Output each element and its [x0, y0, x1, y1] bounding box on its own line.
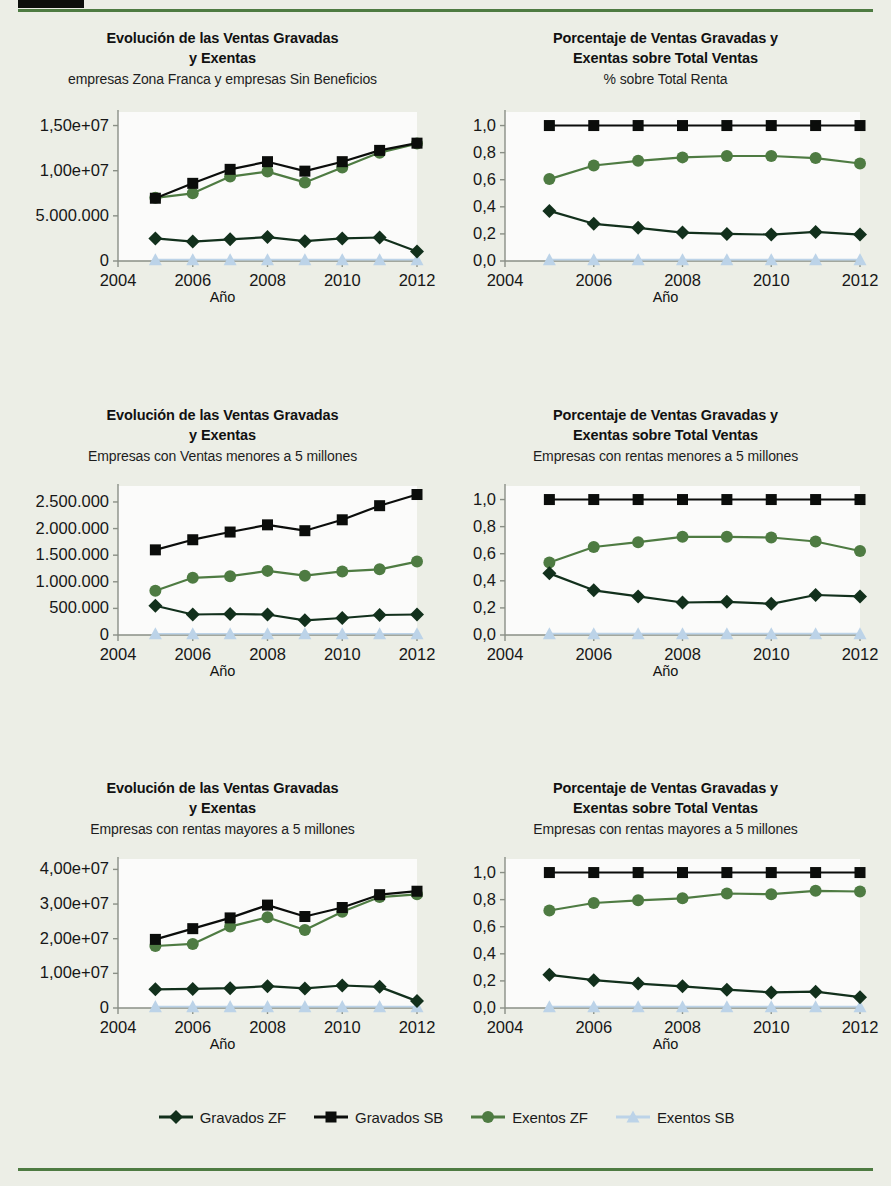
- data-point-circle: [187, 187, 199, 199]
- x-tick-label: 2008: [664, 1018, 701, 1036]
- data-point-circle: [810, 536, 822, 548]
- data-point-square: [766, 120, 777, 131]
- data-point-circle: [677, 151, 689, 163]
- legend-label: Exentos SB: [657, 1109, 734, 1126]
- chart-title: Evolución de las Ventas Gravadas y Exent…: [0, 405, 445, 445]
- y-tick-label: 0,8: [473, 143, 496, 161]
- chart-title-line1: Porcentaje de Ventas Gravadas y: [553, 30, 778, 46]
- y-tick-label: 3,00e+07: [40, 894, 109, 912]
- chart-title-line2: y Exentas: [189, 800, 256, 816]
- data-point-circle: [262, 911, 274, 923]
- x-tick-label: 2004: [100, 645, 137, 663]
- y-tick-label: 1.000.000: [36, 572, 109, 590]
- y-tick-label: 2,00e+07: [40, 929, 109, 947]
- y-tick-label: 0,4: [473, 197, 496, 215]
- data-point-square: [187, 534, 198, 545]
- x-tick-label: 2004: [100, 271, 137, 289]
- legend-item-exentos-sb: Exentos SB: [614, 1107, 734, 1127]
- y-tick-label: 1,00e+07: [40, 963, 109, 981]
- legend-marker-icon: [312, 1107, 350, 1127]
- y-tick-label: 2.000.000: [36, 519, 109, 537]
- x-tick-label: 2012: [842, 1018, 879, 1036]
- data-point-square: [855, 494, 866, 505]
- chart-panel-4: Porcentaje de Ventas Gravadas y Exentas …: [443, 405, 888, 655]
- chart-plot-area: 01,00e+072,00e+073,00e+074,00e+072004200…: [0, 845, 445, 1040]
- data-point-circle: [588, 160, 600, 172]
- chart-title-line1: Evolución de las Ventas Gravadas: [106, 780, 338, 796]
- data-point-circle: [810, 152, 822, 164]
- x-tick-label: 2006: [575, 271, 612, 289]
- x-tick-label: 2006: [174, 645, 211, 663]
- x-tick-label: 2008: [249, 271, 286, 289]
- data-point-square: [810, 120, 821, 131]
- y-tick-label: 0: [100, 998, 109, 1016]
- chart-subtitle: % sobre Total Renta: [443, 69, 888, 89]
- data-point-square: [225, 912, 236, 923]
- legend-label: Gravados ZF: [200, 1109, 286, 1126]
- data-point-square: [412, 886, 423, 897]
- page-header-bar: [0, 0, 891, 12]
- x-tick-label: 2010: [324, 271, 361, 289]
- data-point-circle: [411, 556, 423, 568]
- data-point-circle: [299, 176, 311, 188]
- data-point-square: [150, 934, 161, 945]
- data-point-circle: [336, 565, 348, 577]
- chart-title: Evolución de las Ventas Gravadas y Exent…: [0, 778, 445, 818]
- y-tick-label: 500.000: [49, 598, 109, 616]
- x-tick-label: 2004: [100, 1018, 137, 1036]
- x-tick-label: 2012: [399, 1018, 436, 1036]
- x-tick-label: 2004: [487, 1018, 524, 1036]
- x-tick-label: 2010: [753, 1018, 790, 1036]
- chart-title-line1: Evolución de las Ventas Gravadas: [106, 30, 338, 46]
- data-point-square: [299, 166, 310, 177]
- legend-label: Gravados SB: [355, 1109, 443, 1126]
- x-tick-label: 2004: [487, 645, 524, 663]
- x-tick-label: 2012: [399, 645, 436, 663]
- legend-item-gravados-zf: Gravados ZF: [157, 1107, 286, 1127]
- chart-title-line2: Exentas sobre Total Ventas: [573, 800, 758, 816]
- data-point-circle: [299, 924, 311, 936]
- data-point-square: [262, 519, 273, 530]
- data-point-square: [225, 527, 236, 538]
- chart-title-line1: Evolución de las Ventas Gravadas: [106, 407, 338, 423]
- y-tick-label: 0,2: [473, 971, 496, 989]
- data-point-circle: [187, 938, 199, 950]
- data-point-square: [544, 120, 555, 131]
- y-tick-label: 1,50e+07: [40, 116, 109, 134]
- data-point-circle: [765, 150, 777, 162]
- y-tick-label: 1,0: [473, 116, 496, 134]
- data-point-circle: [374, 563, 386, 575]
- chart-subtitle: Empresas con rentas mayores a 5 millones: [0, 819, 445, 839]
- data-point-square: [299, 911, 310, 922]
- y-tick-label: 0,4: [473, 571, 496, 589]
- chart-subtitle: Empresas con rentas mayores a 5 millones: [443, 819, 888, 839]
- chart-title-line1: Porcentaje de Ventas Gravadas y: [553, 780, 778, 796]
- data-point-square: [299, 525, 310, 536]
- x-tick-label: 2008: [664, 271, 701, 289]
- data-point-square: [855, 867, 866, 878]
- chart-panel-5: Evolución de las Ventas Gravadas y Exent…: [0, 778, 445, 1028]
- chart-title-line2: y Exentas: [189, 50, 256, 66]
- data-point-square: [588, 120, 599, 131]
- y-tick-label: 2.500.000: [36, 492, 109, 510]
- chart-title: Porcentaje de Ventas Gravadas y Exentas …: [443, 778, 888, 818]
- chart-panel-2: Porcentaje de Ventas Gravadas y Exentas …: [443, 28, 888, 278]
- data-point-square: [855, 120, 866, 131]
- data-point-square: [374, 889, 385, 900]
- x-tick-label: 2010: [324, 1018, 361, 1036]
- legend-label: Exentos ZF: [512, 1109, 588, 1126]
- data-point-circle: [543, 173, 555, 185]
- chart-plot-area: 0,00,20,40,60,81,020042006200820102012: [443, 845, 888, 1040]
- data-point-diamond: [169, 1110, 183, 1124]
- data-point-circle: [588, 541, 600, 553]
- chart-plot-area: 0,00,20,40,60,81,020042006200820102012: [443, 98, 888, 293]
- y-tick-label: 0,0: [473, 998, 496, 1016]
- data-point-circle: [262, 565, 274, 577]
- data-point-circle: [854, 886, 866, 898]
- data-point-circle: [854, 545, 866, 557]
- data-point-square: [721, 494, 732, 505]
- chart-title-line1: Porcentaje de Ventas Gravadas y: [553, 407, 778, 423]
- data-point-square: [588, 867, 599, 878]
- data-point-square: [150, 544, 161, 555]
- data-point-square: [721, 867, 732, 878]
